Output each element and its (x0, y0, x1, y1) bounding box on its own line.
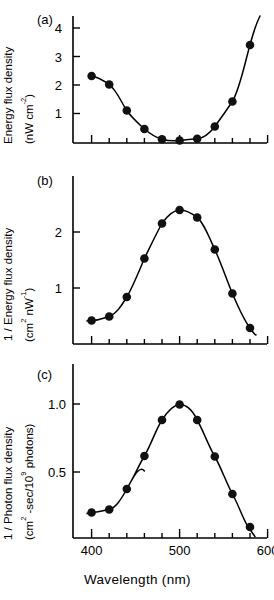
panel-a-y-axis-unit: (nW cm-2) (20, 36, 36, 144)
unit-exponent-2: -1 (19, 292, 28, 299)
unit-exponent: -2 (19, 98, 28, 105)
panel-c-xtick-400: 400 (81, 543, 103, 555)
panel-c-ytick-1p0: 1.0 (48, 397, 66, 412)
panel-c-data-points (87, 400, 254, 531)
panel-a-curve (92, 16, 260, 141)
unit-open: (cm (23, 323, 35, 342)
panel-a-ytick-4: 4 (55, 21, 62, 36)
panel-b-data-points (87, 206, 254, 333)
x-axis-label: Wavelength (nm) (84, 572, 191, 587)
panel-c-y-axis-label-line1: 1 / Photon flux density (2, 427, 14, 540)
panel-a-y-axis-label: Energy flux density (2, 14, 15, 144)
panel-c-xtick-600: 600 (257, 543, 274, 555)
panel-c-ytick-0p5: 0.5 (48, 465, 66, 480)
panel-b-plot: 2 1 (44, 168, 274, 348)
panel-c-y-axis-unit: (cm2 -sec/109 photons) (20, 372, 36, 540)
panel-c-xtick-500: 500 (169, 543, 191, 555)
unit-mid: nW (23, 298, 35, 318)
unit-exponent-2: 9 (19, 472, 28, 476)
panel-c-plot: 1.0 0.5 400 500 600 (44, 360, 274, 555)
panel-c-curve (87, 404, 255, 536)
panel-c-y-axis-unit-text: (cm2 -sec/109 photons) (23, 424, 35, 540)
unit-close: ) (23, 288, 35, 292)
unit-open: (nW cm (23, 104, 35, 144)
panel-b-ytick-2: 2 (55, 225, 62, 240)
unit-mid: -sec/10 (23, 476, 35, 517)
panel-a-data-points (87, 41, 254, 145)
unit-exponent-1: 2 (19, 517, 28, 521)
panel-b-y-axis-label: 1 / Energy flux density (2, 176, 15, 341)
unit-exponent-1: 2 (19, 319, 28, 323)
panel-a-ytick-2: 2 (55, 78, 62, 93)
panel-a-ytick-1: 1 (55, 106, 62, 121)
unit-close: ) (23, 94, 35, 98)
panel-a-plot: 4 3 2 1 (44, 14, 274, 159)
unit-open: (cm (23, 521, 35, 540)
panel-b-y-axis-unit-text: (cm2 nW-1) (23, 288, 35, 342)
panel-b-x-ticks (92, 336, 268, 344)
figure-panel-stack: Energy flux density (nW cm-2) (a) 4 3 2 … (0, 0, 274, 600)
panel-b-y-axis-label-line1: 1 / Energy flux density (2, 228, 14, 341)
panel-a-y-axis-unit-text: (nW cm-2) (23, 94, 35, 144)
panel-a-y-axis-label-line1: Energy flux density (2, 47, 14, 144)
unit-close: photons) (23, 424, 35, 472)
panel-b-y-axis-unit: (cm2 nW-1) (20, 206, 36, 342)
panel-a-ytick-3: 3 (55, 50, 62, 65)
panel-c-x-ticks (92, 529, 268, 538)
panel-c-y-axis-label: 1 / Photon flux density (2, 372, 15, 540)
panel-b-ytick-1: 1 (55, 281, 62, 296)
